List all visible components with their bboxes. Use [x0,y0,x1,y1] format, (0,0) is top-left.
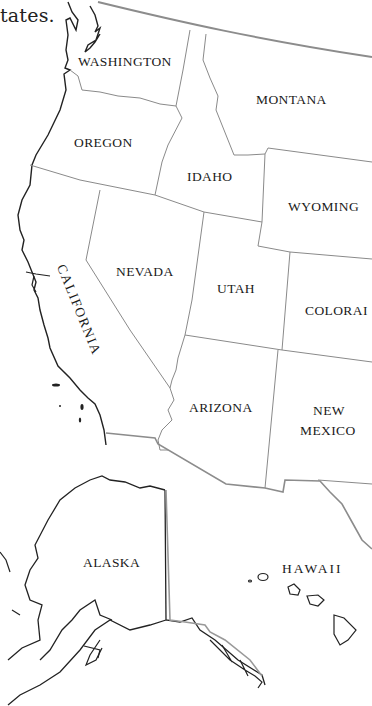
mexico-border [106,433,372,549]
state-label-nevada: NEVADA [116,264,174,280]
hawaii-islands [249,574,357,646]
state-label-washington: WASHINGTON [78,54,172,70]
state-label-new: NEW [313,403,345,419]
state-label-utah: UTAH [217,281,255,297]
alaska-outline [8,476,265,705]
caption-text: tates. [0,4,55,26]
alaska-islands [0,552,262,688]
alaska-panhandle-border [166,490,262,676]
state-label-arizona: ARIZONA [189,400,253,416]
state-label-oregon: OREGON [74,135,133,151]
state-label-mexico: MEXICO [300,423,356,439]
canada-border [98,2,372,57]
state-label-colorai: COLORAI [305,303,368,319]
state-label-wyoming: WYOMING [288,199,359,215]
state-label-alaska: ALASKA [83,555,140,571]
state-label-idaho: IDAHO [187,169,233,185]
state-label-hawaii: HAWAII [282,561,342,577]
sf-bay [26,272,50,292]
state-label-montana: MONTANA [256,92,327,108]
puget-sound [85,6,100,52]
